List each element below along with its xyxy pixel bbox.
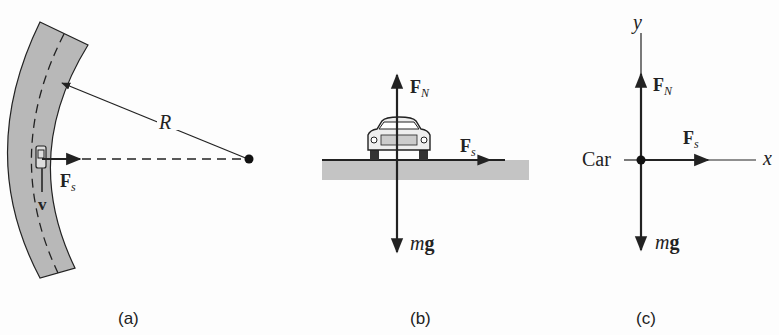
weight-label-c: mg xyxy=(655,232,679,252)
force-subscript: s xyxy=(71,180,76,194)
caption-a: (a) xyxy=(118,310,139,327)
mass-symbol: m xyxy=(655,231,669,253)
diagram-graphics xyxy=(0,0,779,335)
normal-subscript: N xyxy=(664,84,672,98)
caption-c: (c) xyxy=(636,310,656,327)
friction-label-a: Fs xyxy=(60,172,76,190)
caption-b: (b) xyxy=(410,310,431,327)
normal-label-c: FN xyxy=(653,76,672,94)
figure: R Fs v (a) FN Fs mg (b) y x Car FN Fs mg… xyxy=(0,0,779,335)
car-front-view xyxy=(368,117,430,160)
normal-label-b: FN xyxy=(410,78,429,96)
gravity-symbol: g xyxy=(424,232,434,254)
car-label: Car xyxy=(582,149,611,169)
friction-subscript: s xyxy=(694,137,699,151)
velocity-label: v xyxy=(38,196,47,213)
panel-a-road xyxy=(8,22,89,278)
normal-subscript: N xyxy=(421,86,429,100)
normal-symbol: F xyxy=(653,75,664,95)
weight-label-b: mg xyxy=(410,233,434,253)
friction-label-c: Fs xyxy=(683,129,699,147)
force-symbol: F xyxy=(60,171,71,191)
gravity-symbol: g xyxy=(669,231,679,253)
mass-symbol: m xyxy=(410,232,424,254)
radius-line xyxy=(62,83,248,159)
radius-label: R xyxy=(159,112,171,132)
x-axis-label: x xyxy=(763,148,772,168)
friction-label-b: Fs xyxy=(460,137,476,155)
normal-symbol: F xyxy=(410,77,421,97)
friction-symbol: F xyxy=(683,128,694,148)
center-point xyxy=(245,155,254,164)
car-point xyxy=(637,156,646,165)
y-axis-label: y xyxy=(633,12,642,32)
friction-subscript: s xyxy=(471,145,476,159)
friction-symbol: F xyxy=(460,136,471,156)
ground xyxy=(322,160,529,180)
